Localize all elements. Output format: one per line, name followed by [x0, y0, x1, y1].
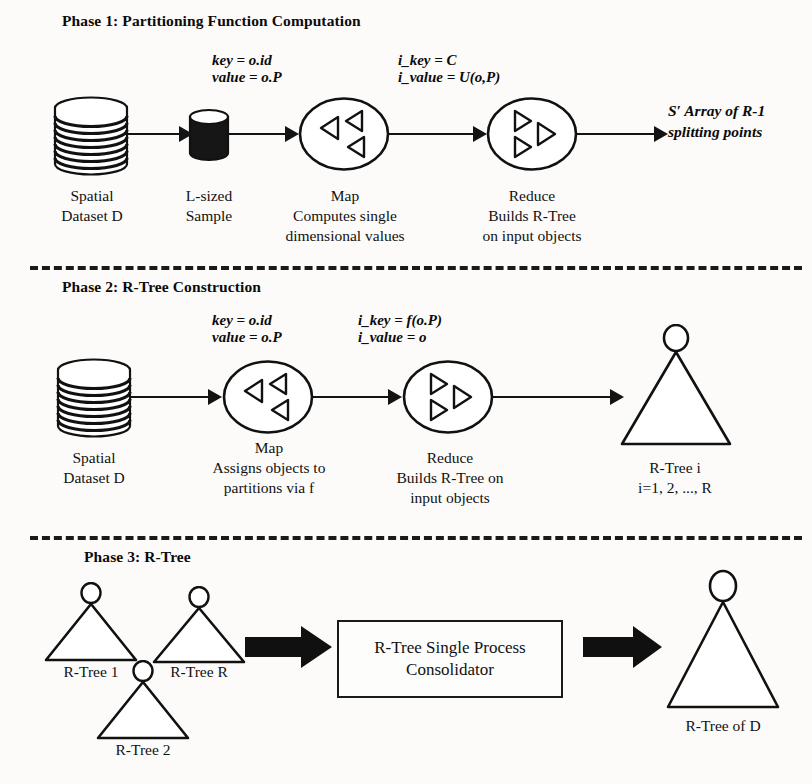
kv-value: value = o.P	[212, 69, 282, 86]
reduce-node-label: Reduce Builds R-Tree on input objects	[443, 186, 621, 246]
spatial-dataset-cylinder-icon	[52, 96, 130, 178]
spatial-dataset-label: Spatial Dataset D	[22, 186, 162, 226]
connector-dataset-to-sample	[126, 133, 181, 135]
map-node-label: Map Assigns objects to partitions via f	[178, 438, 360, 498]
connector-map-to-reduce	[312, 396, 390, 398]
label-line: Map	[178, 438, 360, 458]
connector-dataset-to-map	[130, 396, 210, 398]
output-line: splitting points	[668, 121, 765, 142]
kv-key: key = o.id	[212, 312, 282, 329]
label-line: input objects	[362, 488, 538, 508]
phase-2-map-output-labels: i_key = f(o.P) i_value = o	[358, 312, 442, 346]
label-line: Dataset D	[24, 468, 164, 488]
phase-1-map-input-labels: key = o.id value = o.P	[212, 52, 282, 86]
connector-sample-to-map	[229, 133, 287, 135]
l-sized-sample-label: L-sized Sample	[149, 186, 269, 226]
arrowhead-to-map	[285, 126, 299, 142]
label-line: L-sized	[149, 186, 269, 206]
label-line: Computes single	[256, 206, 434, 226]
kv-key: key = o.id	[212, 52, 282, 69]
kv-i-value: i_value = o	[358, 329, 442, 346]
phase-3-title: Phase 3: R-Tree	[84, 548, 191, 566]
phase-1-title: Phase 1: Partitioning Function Computati…	[62, 12, 361, 30]
label-line: Consolidator	[374, 659, 525, 681]
block-arrow-to-output-icon	[583, 625, 663, 669]
phase-1-map-output-labels: i_key = C i_value = U(o,P)	[398, 52, 500, 86]
map-node-icon	[222, 360, 314, 434]
reduce-node-label: Reduce Builds R-Tree on input objects	[362, 448, 538, 508]
label-line: R-Tree Single Process	[374, 637, 525, 659]
reduce-node-icon	[486, 97, 578, 171]
label-line: Map	[256, 186, 434, 206]
divider-phase-1-2	[30, 266, 802, 270]
label-line: Spatial	[24, 448, 164, 468]
output-line: S′ Array of R-1	[668, 100, 765, 121]
label-line: Spatial	[22, 186, 162, 206]
label-line: i=1, 2, ..., R	[600, 478, 750, 498]
rtree-1-icon	[40, 582, 142, 666]
arrowhead-to-map	[208, 389, 222, 405]
rtree-i-icon	[614, 324, 738, 454]
consolidator-label: R-Tree Single Process Consolidator	[374, 637, 525, 681]
l-sized-sample-cylinder-icon	[186, 108, 232, 164]
label-line: on input objects	[443, 226, 621, 246]
arrowhead-to-reduce	[388, 389, 402, 405]
rtree-of-d-label: R-Tree of D	[648, 716, 798, 736]
connector-reduce-to-rtree	[492, 396, 612, 398]
map-node-label: Map Computes single dimensional values	[256, 186, 434, 246]
kv-i-key: i_key = f(o.P)	[358, 312, 442, 329]
label-line: Assigns objects to	[178, 458, 360, 478]
connector-reduce-to-output	[576, 133, 656, 135]
map-node-icon	[298, 97, 390, 171]
label-line: partitions via f	[178, 478, 360, 498]
kv-i-key: i_key = C	[398, 52, 500, 69]
kv-value: value = o.P	[212, 329, 282, 346]
rtree-2-label: R-Tree 2	[78, 740, 208, 760]
reduce-node-icon	[402, 360, 494, 434]
connector-map-to-reduce	[388, 133, 475, 135]
label-line: Reduce	[362, 448, 538, 468]
label-line: Builds R-Tree on	[362, 468, 538, 488]
rtree-r-icon	[148, 586, 250, 668]
label-line: Sample	[149, 206, 269, 226]
arrowhead-to-reduce	[473, 126, 487, 142]
label-line: Reduce	[443, 186, 621, 206]
label-line: dimensional values	[256, 226, 434, 246]
spatial-dataset-cylinder-icon	[55, 358, 133, 440]
label-line: R-Tree i	[600, 458, 750, 478]
rtree-of-d-icon	[660, 568, 786, 718]
kv-i-value: i_value = U(o,P)	[398, 69, 500, 86]
rtree-i-label: R-Tree i i=1, 2, ..., R	[600, 458, 750, 498]
phase-2-title: Phase 2: R-Tree Construction	[62, 278, 261, 296]
divider-phase-2-3	[30, 536, 802, 540]
arrowhead-to-output	[654, 126, 668, 142]
block-arrow-to-consolidator-icon	[245, 625, 333, 669]
spatial-dataset-label: Spatial Dataset D	[24, 448, 164, 488]
label-line: Builds R-Tree	[443, 206, 621, 226]
phase-1-output-label: S′ Array of R-1 splitting points	[668, 100, 765, 142]
phase-2-map-input-labels: key = o.id value = o.P	[212, 312, 282, 346]
rtree-2-icon	[92, 660, 194, 744]
diagram-canvas: Phase 1: Partitioning Function Computati…	[0, 0, 812, 784]
consolidator-box[interactable]: R-Tree Single Process Consolidator	[337, 620, 563, 698]
label-line: Dataset D	[22, 206, 162, 226]
